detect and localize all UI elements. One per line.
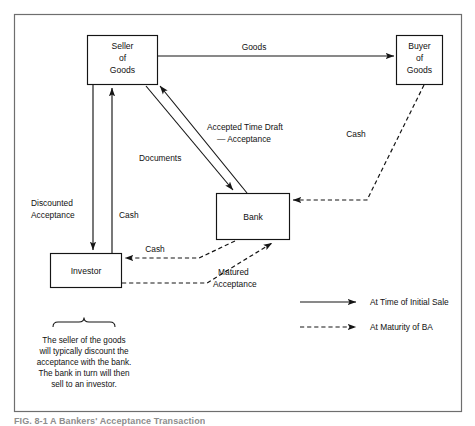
entity-label: of xyxy=(416,53,424,63)
entity-label: Goods xyxy=(407,65,432,75)
legend-label: At Maturity of BA xyxy=(370,322,433,332)
entity-label: Bank xyxy=(243,212,263,222)
figure-root: Seller of Goods Buyer of Goods Bank Inve… xyxy=(0,0,475,426)
flow-label: — Acceptance xyxy=(217,134,271,144)
flow-label: Acceptance xyxy=(31,210,75,220)
flow-label: Documents xyxy=(139,153,181,163)
flow-cash-bank-to-investor: Cash xyxy=(125,241,235,258)
entity-label: of xyxy=(119,53,127,63)
note-line: sell to an investor. xyxy=(51,380,117,389)
entity-label: Investor xyxy=(71,266,102,276)
entity-bank: Bank xyxy=(217,194,290,240)
explanatory-note: The seller of the goods will typically d… xyxy=(37,336,132,389)
flow-label: Cash xyxy=(346,129,366,139)
flow-label: Goods xyxy=(242,42,267,52)
flow-label: Accepted Time Draft xyxy=(207,122,284,132)
flow-cash-investor-to-seller: Cash xyxy=(112,88,139,253)
legend: At Time of Initial Sale At Maturity of B… xyxy=(300,297,449,332)
flow-label: Cash xyxy=(145,244,165,254)
entity-investor: Investor xyxy=(51,254,122,288)
flow-label: Matured xyxy=(218,267,249,277)
note-line: will typically discount the xyxy=(38,347,129,356)
entity-seller-of-goods: Seller of Goods xyxy=(88,36,158,85)
entity-buyer-of-goods: Buyer of Goods xyxy=(397,36,443,85)
flow-label: Cash xyxy=(119,210,139,220)
flow-cash-buyer-to-bank: Cash xyxy=(293,85,424,200)
flow-goods: Goods xyxy=(158,42,394,56)
note-line: The bank in turn will then xyxy=(38,369,129,378)
bankers-acceptance-diagram: Seller of Goods Buyer of Goods Bank Inve… xyxy=(0,0,475,426)
figure-caption: FIG. 8-1 A Bankers' Acceptance Transacti… xyxy=(14,416,205,426)
note-line: acceptance with the bank. xyxy=(37,358,132,367)
flow-label: Acceptance xyxy=(213,279,257,289)
legend-item-initial-sale: At Time of Initial Sale xyxy=(300,297,449,307)
legend-item-maturity-ba: At Maturity of BA xyxy=(300,322,433,332)
entity-label: Buyer xyxy=(408,41,431,51)
flow-arrow-line xyxy=(293,85,424,200)
entity-label: Seller xyxy=(112,41,134,51)
legend-label: At Time of Initial Sale xyxy=(370,297,449,307)
entity-label: Goods xyxy=(110,65,135,75)
note-line: The seller of the goods xyxy=(42,336,125,345)
brace-icon xyxy=(53,318,115,328)
flow-label: Discounted xyxy=(31,198,73,208)
flow-discounted-acceptance: Discounted Acceptance xyxy=(31,85,93,250)
flow-arrow-line xyxy=(125,241,235,258)
note-brace xyxy=(53,318,115,328)
